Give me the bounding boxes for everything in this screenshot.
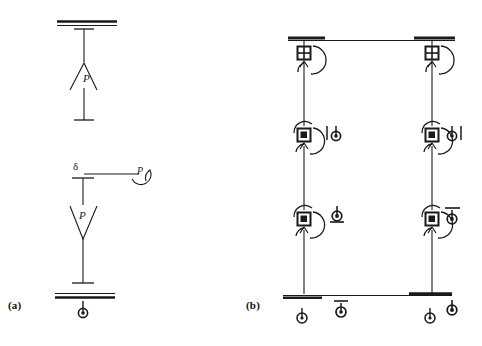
caption-panel-a: (a) xyxy=(8,299,21,311)
panel-a-group: P δ P P xyxy=(55,22,151,318)
panel-b-group xyxy=(283,38,461,323)
hinge-mid-left xyxy=(294,121,325,154)
base-label-right-column xyxy=(425,308,435,323)
label-low-left xyxy=(330,206,344,222)
hinge-top-left xyxy=(298,46,327,74)
hinge-low-left xyxy=(294,205,325,238)
delta-displacement-label: δ xyxy=(73,160,78,172)
bottom-beam xyxy=(283,294,452,298)
applied-moment-label-P: P xyxy=(136,165,143,176)
caption-panel-b: (b) xyxy=(246,299,260,311)
lower-force-label-P: P xyxy=(78,209,86,221)
fixed-support-top xyxy=(57,22,117,26)
figure-canvas: P δ P P xyxy=(0,0,482,346)
hinge-top-right xyxy=(426,46,455,74)
lower-column-segment xyxy=(72,178,94,283)
base-label-mid xyxy=(334,301,348,317)
base-reaction-symbol xyxy=(78,301,87,318)
label-mid-left xyxy=(327,126,341,141)
base-label-right xyxy=(447,300,457,315)
structural-diagram-svg: P δ P P xyxy=(0,0,482,346)
top-beam xyxy=(288,38,455,41)
base-label-left-column xyxy=(297,308,307,323)
upper-force-label-P: P xyxy=(82,72,90,84)
fixed-support-base xyxy=(55,294,115,298)
